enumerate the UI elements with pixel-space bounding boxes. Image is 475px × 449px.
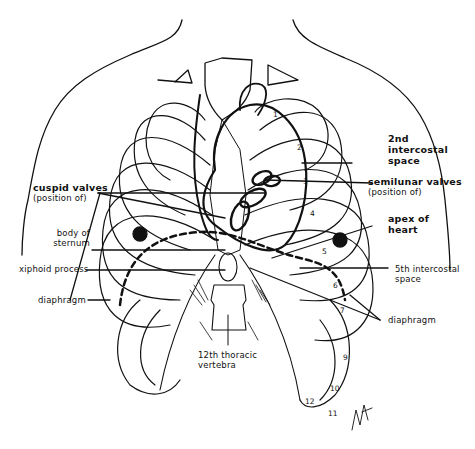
rib-number-9: 9 (343, 353, 348, 362)
label-line: body of (52, 228, 90, 238)
label-line: vertebra (198, 360, 257, 370)
rib-number-10: 10 (330, 384, 340, 393)
label-line: space (388, 155, 448, 166)
label-line: space (395, 274, 460, 284)
rib-number-3: 3 (303, 177, 308, 186)
clavicle-left (158, 70, 192, 83)
label-diaphragm-right: diaphragm (388, 315, 436, 325)
label-body-of-sternum: body of sternum (52, 228, 90, 248)
label-diaphragm-left: diaphragm (38, 295, 86, 305)
ribs-right (245, 99, 373, 407)
label-line: 12th thoracic (198, 350, 257, 360)
label-5th-intercostal: 5th intercostal space (395, 264, 460, 284)
label-line: 2nd (388, 133, 448, 144)
rib-number-5: 5 (322, 247, 327, 256)
thorax-diagram: 2nd intercostal space cuspid valves (pos… (0, 0, 475, 449)
costal-arch-right (240, 255, 300, 400)
label-line: intercostal (388, 144, 448, 155)
xiphoid-process (219, 253, 237, 281)
clavicle-right (268, 65, 298, 85)
rib-number-7: 7 (340, 306, 345, 315)
label-title: semilunar valves (368, 176, 462, 187)
label-line: apex of (388, 213, 429, 224)
label-2nd-intercostal: 2nd intercostal space (388, 133, 448, 166)
label-sub: (position of) (33, 193, 108, 203)
label-xiphoid-process: xiphoid process (19, 264, 89, 274)
great-vessels (240, 84, 266, 115)
nipple-left (133, 227, 147, 241)
label-12th-thoracic-vertebra: 12th thoracic vertebra (198, 350, 257, 370)
rib-number-2: 2 (297, 143, 302, 152)
artist-signature (352, 405, 372, 430)
rib-number-11: 11 (328, 409, 338, 418)
label-apex-of-heart: apex of heart (388, 213, 429, 235)
label-sub: (position of) (368, 187, 462, 197)
label-semilunar-valves: semilunar valves (position of) (368, 176, 462, 197)
rib-number-4: 4 (310, 209, 315, 218)
label-cuspid-valves: cuspid valves (position of) (33, 182, 108, 203)
rib-number-1: 1 (273, 110, 278, 119)
rib-number-12: 12 (305, 397, 315, 406)
label-line: 5th intercostal (395, 264, 460, 274)
diaphragm-crura (190, 280, 270, 340)
label-line: heart (388, 224, 429, 235)
label-title: cuspid valves (33, 182, 108, 193)
rib-number-6: 6 (333, 281, 338, 290)
valve-rings (227, 168, 280, 232)
label-line: sternum (52, 238, 90, 248)
